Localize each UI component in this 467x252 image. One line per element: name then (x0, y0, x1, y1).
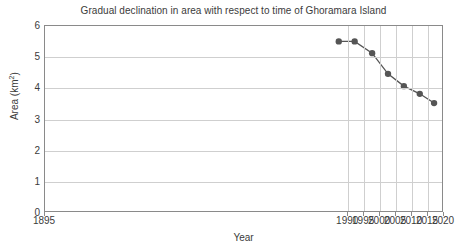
gridline-horizontal (45, 120, 442, 121)
gridline-horizontal (45, 182, 442, 183)
gridline-horizontal (45, 151, 442, 152)
gridline-horizontal (45, 57, 442, 58)
x-axis-tick-label: 2020 (421, 215, 465, 226)
plot-area (44, 25, 443, 212)
data-point-marker (351, 38, 357, 44)
y-axis-title-exponent: 2 (8, 76, 15, 80)
y-axis-title: Area (km2) (8, 56, 20, 136)
gridline-vertical (412, 26, 413, 211)
y-axis-title-text: Area (km (9, 80, 20, 121)
y-axis-title-close: ) (9, 72, 20, 75)
chart-title: Gradual declination in area with respect… (0, 5, 467, 16)
gridline-vertical (348, 26, 349, 211)
x-axis-title: Year (44, 232, 443, 243)
gridline-vertical (380, 26, 381, 211)
x-axis-tick-labels: 18951990199520002005201020152020 (44, 215, 443, 229)
data-series-line (45, 26, 442, 211)
y-axis-tick-label: 6 (8, 20, 40, 31)
data-point-marker (369, 50, 375, 56)
gridline-vertical (428, 26, 429, 211)
gridline-horizontal (45, 88, 442, 89)
y-axis-tick-label: 1 (8, 175, 40, 186)
x-axis-tick-label: 1895 (22, 215, 66, 226)
gridline-vertical (364, 26, 365, 211)
data-point-marker (417, 91, 423, 97)
data-point-marker (431, 100, 437, 106)
gridline-vertical (396, 26, 397, 211)
data-point-marker (336, 38, 342, 44)
y-axis-tick-label: 2 (8, 144, 40, 155)
chart-figure: Gradual declination in area with respect… (0, 0, 467, 252)
data-point-marker (385, 71, 391, 77)
